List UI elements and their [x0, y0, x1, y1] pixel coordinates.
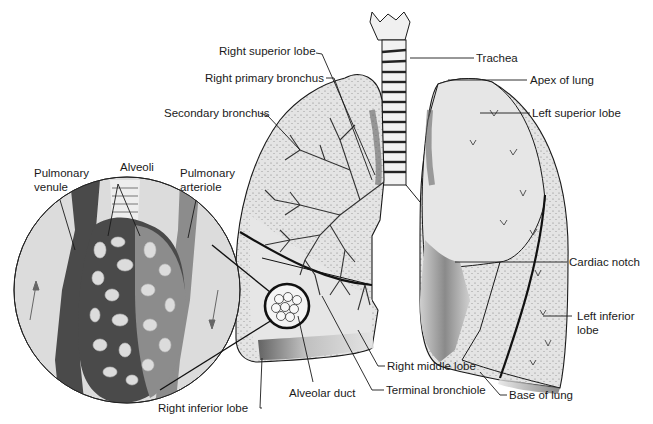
label-secondary-bronchus: Secondary bronchus — [164, 106, 269, 120]
label-pulmonary-arteriole-line2: arteriole — [180, 180, 222, 194]
label-right-middle-lobe: Right middle lobe — [387, 359, 476, 373]
label-left-inferior-lobe-line1: Left inferior — [577, 309, 635, 323]
label-cardiac-notch: Cardiac notch — [569, 255, 640, 269]
label-pulmonary-venule-line1: Pulmonary — [34, 166, 89, 180]
diagram-artwork — [0, 0, 653, 424]
label-alveolar-duct: Alveolar duct — [289, 386, 355, 400]
label-pulmonary-arteriole-line1: Pulmonary — [180, 166, 235, 180]
label-left-inferior-lobe-line2: lobe — [577, 323, 599, 337]
lung-anatomy-diagram: Trachea Apex of lung Left superior lobe … — [0, 0, 653, 424]
label-right-superior-lobe: Right superior lobe — [219, 44, 316, 58]
label-left-superior-lobe: Left superior lobe — [532, 106, 621, 120]
alveoli-inset — [14, 177, 272, 410]
label-trachea: Trachea — [476, 51, 518, 65]
label-pulmonary-venule-line2: venule — [34, 180, 68, 194]
label-apex-of-lung: Apex of lung — [530, 73, 594, 87]
label-alveoli: Alveoli — [120, 160, 154, 174]
label-right-inferior-lobe: Right inferior lobe — [158, 401, 248, 415]
label-base-of-lung: Base of lung — [509, 388, 573, 402]
left-lung — [420, 79, 568, 395]
label-right-primary-bronchus: Right primary bronchus — [205, 71, 324, 85]
label-terminal-bronchiole: Terminal bronchiole — [386, 383, 486, 397]
